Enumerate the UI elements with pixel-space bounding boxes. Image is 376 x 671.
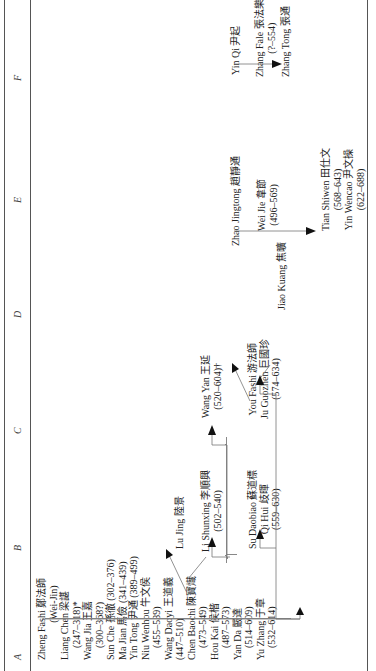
lineage-diagram: A B C D E F Zheng Fashi 鄭法師 (Wei-Jin) Li… <box>0 0 376 671</box>
diagonal-arrows <box>0 0 376 671</box>
